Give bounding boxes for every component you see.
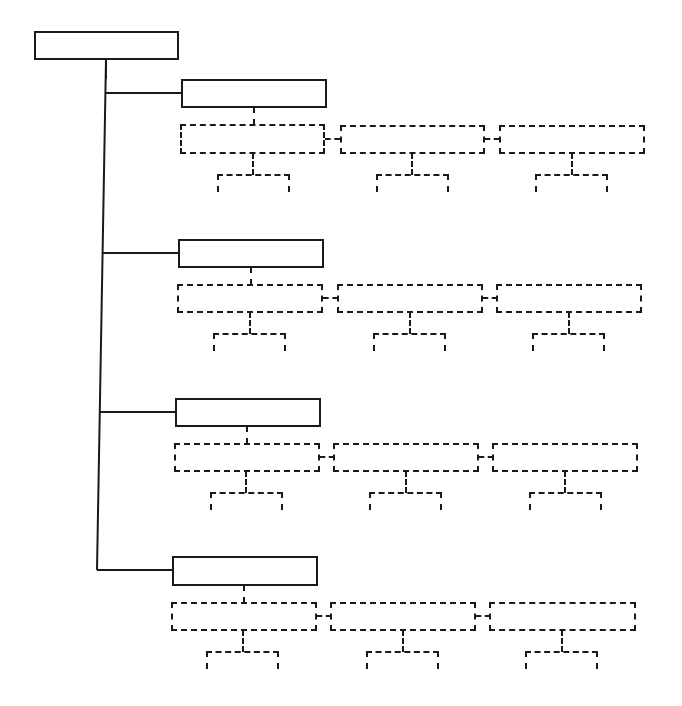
child-link-1-a bbox=[325, 138, 340, 140]
branch-connector-4 bbox=[97, 569, 173, 571]
branch-box-2 bbox=[178, 239, 324, 268]
child-label bbox=[491, 604, 634, 629]
root-box bbox=[34, 31, 179, 60]
child-link-2-a bbox=[323, 297, 338, 299]
branch-drop-1 bbox=[253, 107, 255, 125]
branch-connector-1 bbox=[105, 92, 182, 94]
child-box-3-3 bbox=[492, 443, 638, 472]
child-box-1-3 bbox=[499, 125, 645, 154]
sub-bracket-4-1 bbox=[206, 651, 279, 669]
child-label bbox=[182, 126, 323, 152]
bracket-drop-1-3 bbox=[571, 153, 573, 175]
branch-drop-2 bbox=[250, 267, 252, 285]
child-label bbox=[342, 127, 483, 152]
branch-label-4 bbox=[174, 558, 316, 584]
bracket-drop-1-1 bbox=[252, 153, 254, 175]
branch-box-4 bbox=[172, 556, 318, 586]
sub-bracket-4-3 bbox=[525, 651, 598, 669]
bracket-drop-4-3 bbox=[561, 630, 563, 652]
bracket-drop-2-1 bbox=[249, 312, 251, 334]
sub-bracket-4-2 bbox=[366, 651, 439, 669]
child-box-3-2 bbox=[333, 443, 479, 472]
child-link-2-b bbox=[483, 297, 497, 299]
branch-label-1 bbox=[183, 81, 325, 106]
child-box-2-1 bbox=[177, 284, 323, 313]
branch-connector-2 bbox=[103, 252, 179, 254]
bracket-drop-1-2 bbox=[411, 153, 413, 175]
child-box-4-1 bbox=[171, 602, 317, 631]
trunk-line-skew bbox=[0, 0, 682, 706]
bracket-drop-3-3 bbox=[564, 471, 566, 493]
bracket-drop-3-1 bbox=[245, 471, 247, 493]
child-box-4-2 bbox=[330, 602, 476, 631]
child-box-1-1 bbox=[180, 124, 325, 154]
branch-label-3 bbox=[177, 400, 319, 425]
bracket-drop-4-1 bbox=[242, 630, 244, 652]
child-link-4-a bbox=[317, 615, 331, 617]
child-box-3-1 bbox=[174, 443, 320, 472]
branch-connector-3 bbox=[100, 411, 176, 413]
root-label bbox=[36, 33, 177, 58]
child-box-1-2 bbox=[340, 125, 485, 154]
child-label bbox=[332, 604, 474, 629]
sub-bracket-2-2 bbox=[373, 333, 446, 351]
sub-bracket-3-3 bbox=[529, 492, 602, 510]
child-box-2-2 bbox=[337, 284, 483, 313]
child-label bbox=[173, 604, 315, 629]
sub-bracket-1-1 bbox=[217, 174, 290, 192]
bracket-drop-2-3 bbox=[568, 312, 570, 334]
bracket-drop-4-2 bbox=[402, 630, 404, 652]
child-label bbox=[501, 127, 643, 152]
sub-bracket-3-1 bbox=[210, 492, 283, 510]
child-label bbox=[176, 445, 318, 470]
trunk-line bbox=[105, 59, 107, 79]
branch-drop-3 bbox=[246, 426, 248, 444]
child-link-3-b bbox=[479, 456, 493, 458]
child-link-4-b bbox=[476, 615, 490, 617]
sub-bracket-1-3 bbox=[535, 174, 608, 192]
child-link-3-a bbox=[320, 456, 334, 458]
bracket-drop-2-2 bbox=[409, 312, 411, 334]
branch-box-3 bbox=[175, 398, 321, 427]
child-label bbox=[498, 286, 640, 311]
child-label bbox=[339, 286, 481, 311]
child-label bbox=[335, 445, 477, 470]
bracket-drop-3-2 bbox=[405, 471, 407, 493]
sub-bracket-2-1 bbox=[213, 333, 286, 351]
child-link-1-b bbox=[485, 138, 499, 140]
branch-drop-4 bbox=[243, 585, 245, 603]
branch-box-1 bbox=[181, 79, 327, 108]
branch-label-2 bbox=[180, 241, 322, 266]
sub-bracket-2-3 bbox=[532, 333, 605, 351]
child-box-4-3 bbox=[489, 602, 636, 631]
child-box-2-3 bbox=[496, 284, 642, 313]
sub-bracket-3-2 bbox=[369, 492, 442, 510]
child-label bbox=[179, 286, 321, 311]
sub-bracket-1-2 bbox=[376, 174, 449, 192]
child-label bbox=[494, 445, 636, 470]
